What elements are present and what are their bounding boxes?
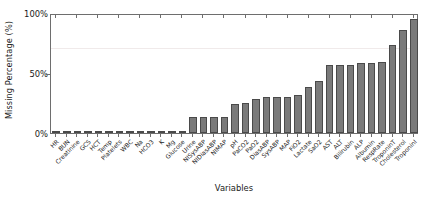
reference-line [51,48,417,49]
x-tick-mark [202,134,203,137]
x-tick-mark [234,134,235,137]
bar [347,65,355,133]
bar [210,117,218,133]
x-axis-title-text: Variables [215,183,253,193]
y-tick-label: 100% [2,9,48,19]
bar [52,131,60,133]
bar [326,65,334,133]
bar [357,63,365,133]
x-tick-mark [360,134,361,137]
x-tick-mark [287,134,288,137]
top-tick-mark [139,14,140,18]
x-tick-mark [118,134,119,137]
top-tick-mark [202,14,203,18]
top-tick-mark [266,14,267,18]
bar [231,104,239,133]
bar [74,131,82,133]
top-tick-mark [181,14,182,18]
bars-container [51,15,417,133]
bar [305,87,313,133]
x-tick-mark [223,134,224,137]
x-tick-mark [129,134,130,137]
top-tick-mark [308,14,309,18]
bar [284,97,292,133]
x-tick-mark [371,134,372,137]
bar [294,95,302,133]
x-tick-mark [55,134,56,137]
top-tick-mark [97,14,98,18]
bar [84,131,92,133]
x-tick-mark [318,134,319,137]
plot-area [50,14,418,134]
bar [399,30,407,133]
x-tick-mark [66,134,67,137]
bar [273,97,281,133]
x-tick-mark [276,134,277,137]
top-tick-mark [413,14,414,18]
top-tick-mark [160,14,161,18]
top-tick-mark [371,14,372,18]
bar [389,45,397,133]
x-tick-mark [266,134,267,137]
bar [126,131,134,133]
y-tick-mark [46,74,50,75]
bar [410,19,418,133]
bar [242,103,250,133]
top-tick-mark [223,14,224,18]
bar [315,81,323,133]
bar [179,131,187,133]
top-tick-mark [76,14,77,18]
x-tick-mark [339,134,340,137]
top-tick-mark [287,14,288,18]
x-axis-title: Variables [50,183,418,193]
x-tick-mark [402,134,403,137]
top-tick-mark [55,14,56,18]
bar [189,117,197,133]
top-tick-mark [118,14,119,18]
x-tick-mark [255,134,256,137]
x-tick-mark [181,134,182,137]
bar [105,131,113,133]
x-tick-mark [245,134,246,137]
x-tick-mark [76,134,77,137]
bar [336,65,344,133]
top-tick-mark [392,14,393,18]
x-tick-mark [171,134,172,137]
bar [63,131,71,133]
bar [252,99,260,133]
x-tick-mark [160,134,161,137]
x-tick-mark [97,134,98,137]
x-tick-mark [350,134,351,137]
bar [147,131,155,133]
x-tick-mark [87,134,88,137]
bar [221,117,229,133]
top-tick-mark [350,14,351,18]
y-tick-label: 0% [2,129,48,139]
top-tick-mark [245,14,246,18]
x-tick-mark [139,134,140,137]
bar [95,131,103,133]
bar [116,131,124,133]
bar [137,131,145,133]
bar [378,62,386,133]
bar [168,131,176,133]
bar [158,131,166,133]
x-tick-mark [213,134,214,137]
x-tick-mark [192,134,193,137]
top-tick-mark [329,14,330,18]
bar [263,97,271,133]
bar [368,63,376,133]
missing-percentage-bar-chart: Missing Percentage (%) 0%50%100%HRBUNCre… [0,0,444,198]
y-tick-label: 50% [2,69,48,79]
bar [200,117,208,133]
x-tick-mark [381,134,382,137]
x-tick-mark [108,134,109,137]
x-tick-mark [297,134,298,137]
